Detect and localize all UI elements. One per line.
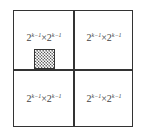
horizontal-divider [14,69,132,71]
quadrant-grid: 2k−1×2k−1 2k−1×2k−1 2k−1×2k−1 2k−1×2k−1 [13,10,133,127]
cell-label-top-right: 2k−1×2k−1 [75,32,133,43]
cell-label-bottom-left: 2k−1×2k−1 [15,93,73,104]
cell-label-bottom-right: 2k−1×2k−1 [75,93,133,104]
checkered-defect-square [34,49,55,69]
cell-label-top-left: 2k−1×2k−1 [15,32,73,43]
